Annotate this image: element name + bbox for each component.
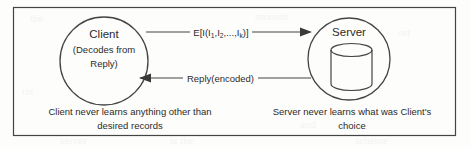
client-caption-line-2: desired records: [97, 120, 163, 131]
svg-text:amount: amount: [255, 10, 288, 22]
request-label-mid-2: ,...,I: [224, 27, 240, 38]
server-caption-line-2: choice: [338, 120, 365, 131]
server-title: Server: [332, 26, 366, 38]
svg-text:ort: ort: [398, 26, 410, 38]
diagram-canvas: the amount ort ret and server scheme is …: [0, 0, 471, 148]
client-caption-line-1: Client never learns anything other than: [48, 106, 211, 117]
server-caption-line-1: Server never learns what was Client's: [273, 106, 432, 117]
request-label-suffix: )]: [243, 27, 249, 38]
svg-text:ret: ret: [22, 85, 34, 97]
reply-edge-label: Reply(encoded): [187, 73, 254, 84]
svg-text:and: and: [300, 118, 316, 130]
diagram-figure: the amount ort ret and server scheme is …: [0, 0, 471, 148]
client-subtitle-line-1: (Decodes from: [73, 44, 135, 55]
request-label-prefix: E[I(I: [193, 27, 210, 38]
svg-text:the: the: [30, 12, 44, 24]
client-subtitle-line-2: Reply): [90, 58, 117, 69]
client-title: Client: [89, 28, 119, 40]
